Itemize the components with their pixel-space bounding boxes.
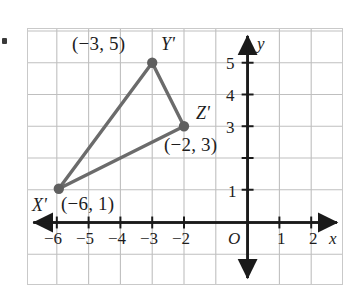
z-prime-coordinate-label: (−2, 3) <box>164 135 217 154</box>
y-prime-point-label: Y' <box>161 35 175 53</box>
y-tick-label-1: 1 <box>228 183 237 200</box>
edge-artifact-mark <box>2 38 7 44</box>
x-axis-label: x <box>329 230 337 247</box>
x-tick-label-neg5: −5 <box>76 230 94 247</box>
y-tick-label-5: 5 <box>226 55 235 72</box>
x-tick-label-2: 2 <box>309 230 318 247</box>
y-axis-label: y <box>257 35 265 52</box>
y-prime-coordinate-label: (−3, 5) <box>72 34 125 53</box>
y-tick-label-3: 3 <box>226 119 235 136</box>
x-tick-label-1: 1 <box>277 230 286 247</box>
x-tick-label-neg6: −6 <box>44 230 62 247</box>
x-tick-label-neg3: −3 <box>140 230 158 247</box>
z-prime-point-label: Z' <box>196 104 210 122</box>
origin-label: O <box>228 230 240 247</box>
x-tick-label-neg2: −2 <box>172 230 190 247</box>
coordinate-plane: 5 4 3 1 −6 −5 −4 −3 −2 1 2 O x y (−3, 5)… <box>27 28 343 285</box>
x-tick-label-neg4: −4 <box>108 230 126 247</box>
y-tick-label-4: 4 <box>226 87 235 104</box>
x-prime-point-label: X' <box>32 196 47 214</box>
figure-canvas: 5 4 3 1 −6 −5 −4 −3 −2 1 2 O x y (−3, 5)… <box>0 0 360 295</box>
x-prime-coordinate-label: (−6, 1) <box>61 194 114 213</box>
